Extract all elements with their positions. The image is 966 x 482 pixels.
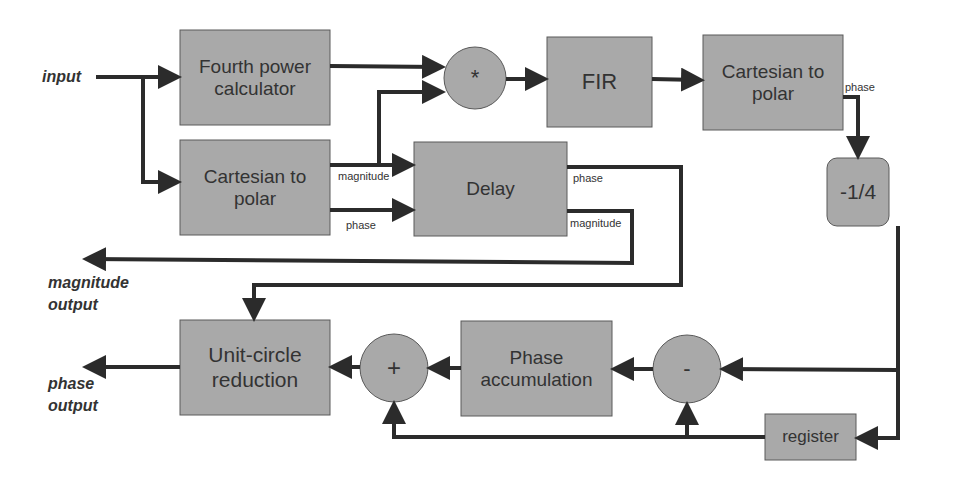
left-phase-signal-label: phase xyxy=(346,219,376,231)
phase-output-label: phase output xyxy=(48,373,98,416)
phase-output-line1: phase xyxy=(48,373,98,395)
cart-to-polar-right-label: Cartesian to polar xyxy=(713,35,833,130)
input-label: input xyxy=(42,66,81,88)
phase-accumulation-label: Phase accumulation xyxy=(461,321,612,416)
magnitude-output-line1: magnitude xyxy=(48,272,129,294)
unit-circle-label: Unit-circle reduction xyxy=(180,320,330,415)
block-diagram: input magnitude output phase output Four… xyxy=(0,0,966,482)
delay-label: Delay xyxy=(414,142,567,236)
subtractor-label: - xyxy=(653,335,721,403)
fir-label: FIR xyxy=(547,37,652,127)
right-phase-signal-label: phase xyxy=(845,81,875,93)
adder-label: + xyxy=(360,334,428,402)
register-label: register xyxy=(765,414,856,460)
scale-label: -1/4 xyxy=(827,158,889,226)
left-magnitude-signal-label: magnitude xyxy=(338,170,389,182)
fourth-power-label: Fourth power calculator xyxy=(180,30,330,125)
magnitude-output-line2: output xyxy=(48,294,129,316)
delay-phase-signal-label: phase xyxy=(573,172,603,184)
magnitude-output-label: magnitude output xyxy=(48,272,129,315)
phase-output-line2: output xyxy=(48,395,98,417)
cart-to-polar-left-label: Cartesian to polar xyxy=(190,140,320,235)
delay-magnitude-signal-label: magnitude xyxy=(570,217,621,229)
multiply-label: * xyxy=(444,47,506,109)
